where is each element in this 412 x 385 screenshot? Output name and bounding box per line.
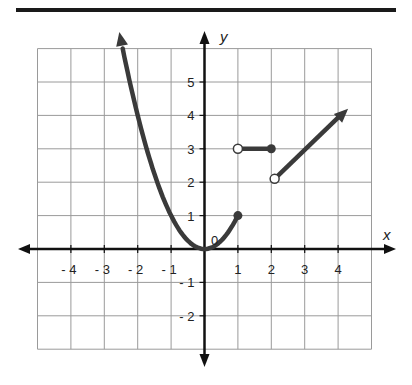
axes — [18, 31, 396, 367]
y-tick-label: - 2 — [179, 309, 194, 324]
y-axis-up-arrow-icon — [200, 31, 210, 44]
x-tick-label: 2 — [268, 262, 275, 277]
x-tick-label: - 1 — [162, 262, 177, 277]
y-tick-label: 2 — [187, 175, 194, 190]
x-tick-label: - 4 — [61, 262, 76, 277]
x-tick-label: - 2 — [128, 262, 143, 277]
parabola-arrow-icon — [116, 32, 128, 47]
closed-dot-1-1 — [233, 211, 242, 220]
open-dot-1-3 — [233, 144, 242, 153]
tick-labels: - 4- 3- 2- 1123454321- 1- 2 — [61, 75, 341, 324]
x-axis-left-arrow-icon — [18, 244, 30, 254]
open-dot-2-2 — [270, 174, 279, 183]
y-tick-label: 5 — [187, 75, 194, 90]
y-tick-label: 1 — [187, 209, 194, 224]
closed-dot-2-3 — [267, 144, 276, 153]
y-tick-label: - 1 — [179, 275, 194, 290]
x-tick-label: 3 — [301, 262, 308, 277]
piecewise-function-graph: - 4- 3- 2- 1123454321- 1- 2 x y 0 — [0, 0, 412, 385]
x-axis-right-arrow-icon — [384, 244, 396, 254]
origin-label: 0 — [211, 233, 218, 248]
ray-line — [275, 116, 340, 179]
y-tick-label: 4 — [187, 108, 194, 123]
x-tick-label: - 3 — [95, 262, 110, 277]
y-axis-label: y — [219, 28, 229, 45]
top-rule — [16, 8, 396, 12]
x-tick-label: 4 — [334, 262, 341, 277]
y-tick-label: 3 — [187, 142, 194, 157]
x-axis-label: x — [382, 226, 391, 243]
x-tick-label: 1 — [234, 262, 241, 277]
y-axis-down-arrow-icon — [200, 354, 210, 367]
function-curves — [116, 32, 348, 249]
